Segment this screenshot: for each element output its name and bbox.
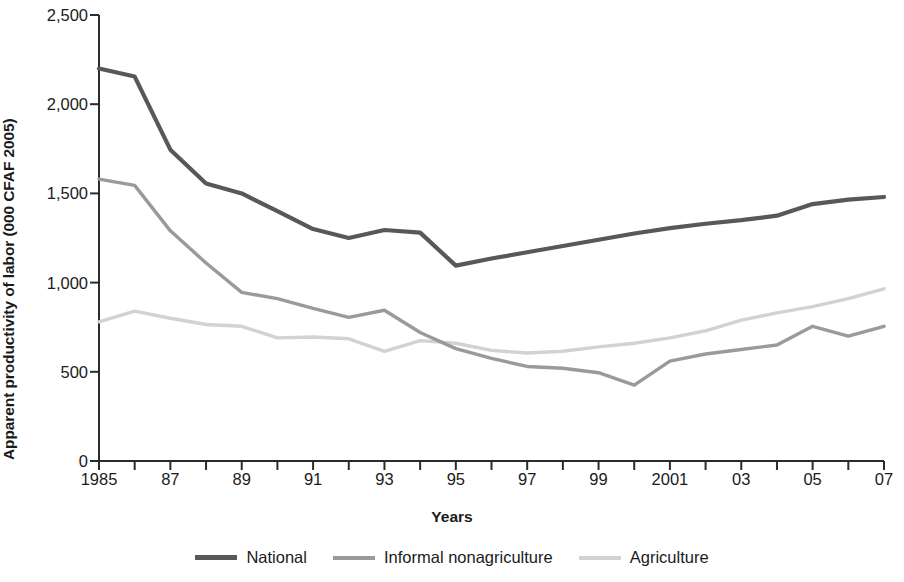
- series-line-agriculture: [99, 289, 884, 353]
- series-line-national: [99, 69, 884, 266]
- legend-swatch-icon: [195, 555, 237, 559]
- legend-label: National: [246, 548, 307, 567]
- chart-legend: NationalInformal nonagricultureAgricultu…: [0, 548, 904, 567]
- legend-swatch-icon: [333, 556, 375, 560]
- legend-item[interactable]: National: [195, 548, 307, 567]
- series-line-informal-nonagriculture: [99, 179, 884, 385]
- legend-swatch-icon: [579, 556, 621, 560]
- legend-label: Agriculture: [630, 548, 709, 567]
- plot-area: [0, 0, 904, 582]
- legend-item[interactable]: Agriculture: [579, 548, 709, 567]
- legend-item[interactable]: Informal nonagriculture: [333, 548, 553, 567]
- chart-container: Apparent productivity of labor (000 CFAF…: [0, 0, 904, 582]
- legend-label: Informal nonagriculture: [384, 548, 553, 567]
